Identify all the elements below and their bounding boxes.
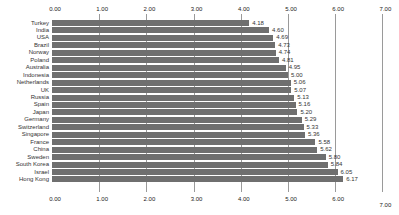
- bar: [52, 80, 291, 86]
- value-label: 5.80: [329, 154, 341, 161]
- x-axis-tick-bottom: 2.00: [144, 196, 156, 202]
- bar: [52, 109, 297, 115]
- bar: [52, 139, 315, 145]
- x-axis-tick-top: 1.00: [96, 6, 108, 12]
- value-label: 5.20: [300, 109, 312, 116]
- category-label: Brazil: [1, 42, 49, 49]
- bar: [52, 132, 305, 138]
- category-label: Switzerland: [1, 124, 49, 131]
- x-axis-tick-top: 5.00: [285, 6, 297, 12]
- category-label: Spain: [1, 101, 49, 108]
- value-label: 5.07: [294, 87, 306, 94]
- value-label: 5.62: [320, 146, 332, 153]
- bar: [52, 117, 302, 123]
- bar: [52, 124, 304, 130]
- bar: [52, 65, 286, 71]
- bar: [52, 147, 317, 153]
- value-label: 5.29: [305, 116, 317, 123]
- bar: [52, 27, 269, 33]
- bar: [52, 72, 288, 78]
- value-label: 4.18: [252, 20, 264, 27]
- category-label: Norway: [1, 49, 49, 56]
- x-axis-tick-bottom: 7.00: [380, 202, 392, 208]
- x-axis-tick-top: 7.00: [380, 6, 392, 12]
- bar: [52, 169, 338, 175]
- x-axis-tick-top: 2.00: [144, 6, 156, 12]
- value-label: 5.33: [307, 124, 319, 131]
- category-label: USA: [1, 34, 49, 41]
- category-label: Singapore: [1, 131, 49, 138]
- bar: [52, 87, 291, 93]
- category-label: Israel: [1, 169, 49, 176]
- category-label: Sweden: [1, 154, 49, 161]
- bar: [52, 154, 326, 160]
- bar: [52, 162, 328, 168]
- category-label: Australia: [1, 64, 49, 71]
- category-label: India: [1, 27, 49, 34]
- category-label: Hong Kong: [1, 176, 49, 183]
- x-axis-tick-bottom: 3.00: [191, 196, 203, 202]
- value-label: 5.06: [294, 79, 306, 86]
- x-axis-tick-top: 4.00: [238, 6, 250, 12]
- category-label: Japan: [1, 109, 49, 116]
- bar: [52, 50, 276, 56]
- bar: [52, 35, 273, 41]
- x-axis-tick-bottom: 0.00: [49, 196, 61, 202]
- category-label: Indonesia: [1, 72, 49, 79]
- x-axis-tick-bottom: 6.00: [332, 196, 344, 202]
- value-label: 5.84: [331, 161, 343, 168]
- value-label: 5.58: [318, 139, 330, 146]
- value-label: 5.16: [299, 101, 311, 108]
- horizontal-bar-chart: 0.000.001.001.002.002.003.003.004.004.00…: [0, 0, 399, 215]
- value-label: 4.69: [276, 34, 288, 41]
- bar: [52, 42, 275, 48]
- value-label: 5.13: [297, 94, 309, 101]
- bar: [52, 95, 294, 101]
- category-label: France: [1, 139, 49, 146]
- value-label: 4.81: [282, 57, 294, 64]
- gridline: [382, 14, 383, 192]
- category-label: South Korea: [1, 161, 49, 168]
- category-label: Germany: [1, 116, 49, 123]
- value-label: 4.60: [272, 27, 284, 34]
- category-label: Russia: [1, 94, 49, 101]
- category-label: Turkey: [1, 20, 49, 27]
- x-axis-tick-top: 3.00: [191, 6, 203, 12]
- bar: [52, 20, 249, 26]
- value-label: 5.00: [291, 72, 303, 79]
- category-label: UK: [1, 87, 49, 94]
- x-axis-tick-top: 6.00: [332, 6, 344, 12]
- x-axis-tick-top: 0.00: [49, 6, 61, 12]
- bar: [52, 176, 343, 182]
- bar: [52, 102, 296, 108]
- category-label: Poland: [1, 57, 49, 64]
- value-label: 4.95: [289, 64, 301, 71]
- x-axis-tick-bottom: 4.00: [238, 196, 250, 202]
- category-label: Netherlands: [1, 79, 49, 86]
- x-axis-tick-bottom: 1.00: [96, 196, 108, 202]
- value-label: 4.73: [278, 42, 290, 49]
- value-label: 6.17: [346, 176, 358, 183]
- value-label: 6.05: [341, 169, 353, 176]
- category-label: China: [1, 146, 49, 153]
- value-label: 4.74: [279, 49, 291, 56]
- value-label: 5.36: [308, 131, 320, 138]
- x-axis-tick-bottom: 5.00: [285, 196, 297, 202]
- bar: [52, 57, 279, 63]
